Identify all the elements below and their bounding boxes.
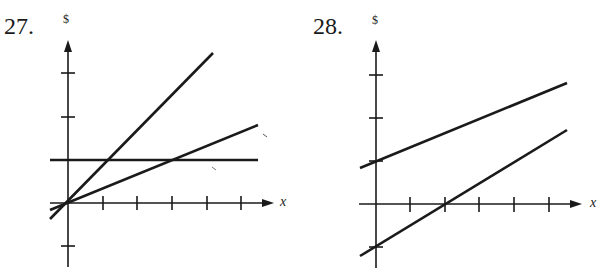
charts-canvas [0,0,609,280]
y-axis-arrow-icon [372,40,380,52]
series-steep-line [50,53,213,219]
series-lower-line [360,130,567,256]
y-axis-arrow-icon [64,40,72,52]
x-axis-arrow-icon [570,200,582,208]
stray-mark [263,134,267,137]
x-axis-arrow-icon [262,199,274,207]
stray-mark [212,167,216,170]
series-upper-line [360,83,567,168]
series-shallow-line [50,125,258,210]
chart-28 [359,40,582,268]
chart-27 [50,40,274,267]
